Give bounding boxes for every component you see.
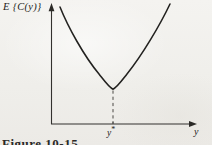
plot-canvas [0, 0, 212, 145]
optimum-tick-label-star: * [111, 125, 115, 134]
figure-caption: Figure 10-15 [2, 136, 210, 145]
expected-cost-curve [60, 4, 170, 89]
figure-container: E {C(y)} y y* Figure 10-15 [0, 0, 212, 145]
x-axis [51, 121, 197, 127]
y-axis-arrowhead [49, 3, 55, 11]
y-axis-label: E {C(y)} [3, 2, 42, 13]
y-axis [49, 3, 55, 124]
